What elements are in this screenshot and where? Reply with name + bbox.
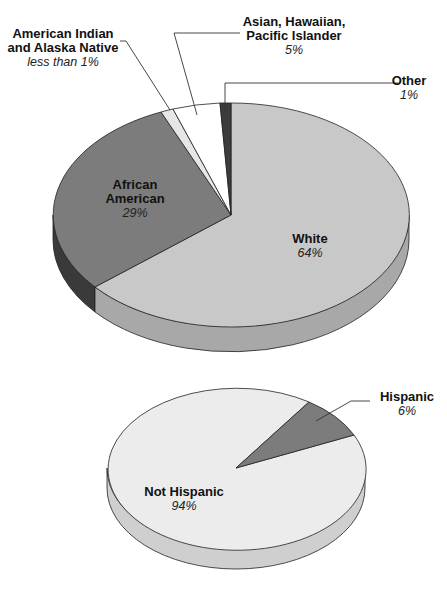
label-value: 94% [134,499,234,513]
label-value: less than 1% [2,55,124,69]
label-asian: Asian, Hawaiian, Pacific Islander 5% [236,15,352,57]
label-hispanic: Hispanic 6% [372,390,442,418]
ethnicity-pie-top [108,388,366,550]
label-name: Pacific Islander [236,29,352,43]
label-name: White [280,232,340,246]
label-name: American Indian [2,27,124,41]
label-name: Not Hispanic [134,485,234,499]
label-name: and Alaska Native [2,41,124,55]
label-name: African [95,178,175,192]
label-name: American [95,192,175,206]
label-value: 1% [382,88,436,102]
label-african-american: African American 29% [95,178,175,220]
label-not-hispanic: Not Hispanic 94% [134,485,234,513]
label-white: White 64% [280,232,340,260]
label-name: Asian, Hawaiian, [236,15,352,29]
label-value: 5% [236,43,352,57]
label-name: Other [382,74,436,88]
label-value: 6% [372,404,442,418]
label-name: Hispanic [372,390,442,404]
label-value: 29% [95,206,175,220]
label-other: Other 1% [382,74,436,102]
label-value: 64% [280,246,340,260]
label-american-indian: American Indian and Alaska Native less t… [2,27,124,69]
